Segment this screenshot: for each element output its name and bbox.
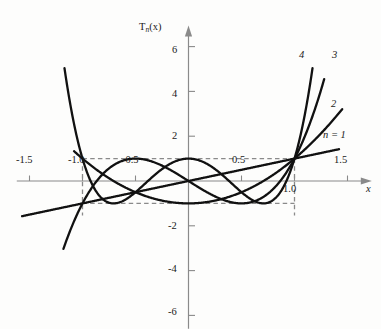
y-tick-label-6: 6: [172, 45, 177, 56]
y-tick-label--4: -4: [168, 264, 177, 275]
x-tick-label-0.5: 0.5: [232, 155, 245, 166]
curve-label-n3: 3: [332, 50, 337, 61]
curve-3: [63, 79, 324, 249]
y-tick-label--2: -2: [168, 221, 177, 232]
x-tick-label-1.0: 1.0: [283, 184, 296, 195]
chebyshev-polynomial-figure: Tn(x) x -1.5 -1.0 -0.5 0.5 1.0 1.5 6 4 2…: [0, 0, 381, 329]
y-axis-title-arg: (x): [149, 21, 161, 32]
axes-layer: [17, 25, 372, 328]
x-axis-title: x: [366, 184, 371, 195]
chart-canvas: [0, 0, 381, 329]
y-axis-arrow: [185, 25, 192, 36]
x-tick-label-1.5: 1.5: [334, 155, 347, 166]
x-tick-label--1.5: -1.5: [16, 155, 33, 166]
y-axis-title-subscript: n: [145, 25, 149, 34]
y-axis-title: Tn(x): [139, 22, 161, 33]
curve-label-n4: 4: [299, 50, 304, 61]
y-tick-label-4: 4: [172, 89, 177, 100]
y-tick-label--6: -6: [168, 307, 177, 318]
curve-label-n2: 2: [331, 99, 336, 110]
curve-label-n1: n = 1: [323, 130, 346, 141]
x-tick-label--0.5: -0.5: [122, 155, 139, 166]
y-tick-label-2: 2: [172, 131, 177, 142]
x-tick-label--1.0: -1.0: [68, 155, 85, 166]
